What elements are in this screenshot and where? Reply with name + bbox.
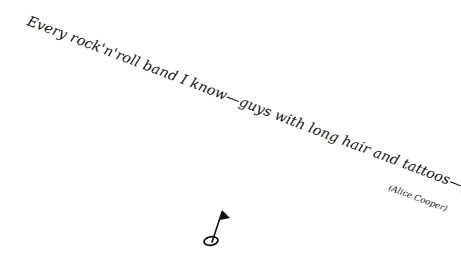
quote-attribution: (Alice Cooper) — [387, 182, 449, 213]
golf-flag-icon — [200, 203, 240, 253]
quote-text: Every rock'n'roll band I know—guys with … — [25, 13, 461, 231]
